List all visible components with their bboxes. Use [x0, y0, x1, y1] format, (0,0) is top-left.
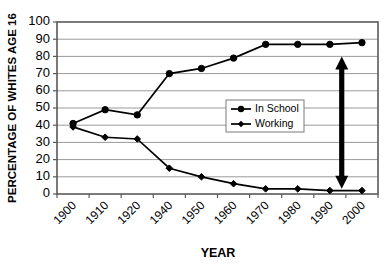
- y-tick-label: 30: [36, 134, 50, 149]
- legend-label[interactable]: Working: [255, 117, 293, 129]
- y-tick-label: 0: [43, 185, 50, 200]
- data-point-marker: [327, 41, 333, 47]
- x-axis-title: YEAR: [201, 246, 236, 260]
- y-tick-label: 10: [36, 168, 50, 183]
- data-point-marker: [295, 41, 301, 47]
- y-tick-label: 50: [36, 99, 50, 114]
- y-tick-label: 100: [28, 13, 50, 28]
- y-tick-label: 90: [36, 31, 50, 46]
- y-tick-label: 40: [36, 117, 50, 132]
- data-point-marker: [198, 65, 204, 71]
- data-point-marker: [166, 70, 172, 76]
- y-axis-title: PERCENTAGE OF WHITES AGE 16: [6, 13, 18, 203]
- data-point-marker: [230, 55, 236, 61]
- y-tick-label: 80: [36, 48, 50, 63]
- legend-label[interactable]: In School: [255, 102, 299, 114]
- data-point-marker: [359, 39, 365, 45]
- chart-figure: 0102030405060708090100 19001910192019401…: [0, 0, 392, 266]
- legend[interactable]: In SchoolWorking: [226, 100, 304, 132]
- data-point-marker: [134, 112, 140, 118]
- line-chart: 0102030405060708090100 19001910192019401…: [0, 0, 392, 266]
- data-point-marker: [102, 107, 108, 113]
- legend-marker: [238, 106, 244, 112]
- y-tick-label: 60: [36, 82, 50, 97]
- y-tick-label: 70: [36, 65, 50, 80]
- y-tick-label: 20: [36, 151, 50, 166]
- data-point-marker: [262, 41, 268, 47]
